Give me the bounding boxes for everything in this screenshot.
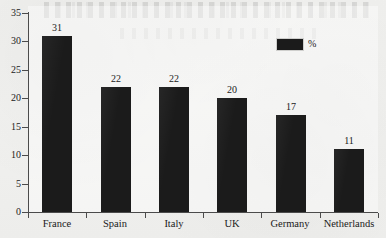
y-axis-tick-label: 35 <box>1 8 21 18</box>
bar[interactable] <box>276 115 306 212</box>
bar-value-label: 20 <box>212 85 252 95</box>
bar[interactable] <box>334 149 364 212</box>
bar-chart: 05101520253035 FranceSpainItalyUKGermany… <box>0 0 386 238</box>
y-axis-tick-label: 25 <box>1 65 21 75</box>
x-axis-category-label: Germany <box>261 218 319 230</box>
y-axis-tick <box>22 41 28 42</box>
y-axis-tick <box>22 127 28 128</box>
bar[interactable] <box>217 98 247 212</box>
y-axis-tick <box>22 184 28 185</box>
bar-value-label: 11 <box>329 136 369 146</box>
y-axis-tick-label-wrap: 35 <box>0 8 21 18</box>
y-axis-tick-label: 20 <box>1 93 21 103</box>
y-axis-line <box>28 12 29 213</box>
y-axis-tick-label-wrap: 20 <box>0 93 21 103</box>
bar[interactable] <box>101 87 131 212</box>
legend-swatch-percent <box>276 38 304 51</box>
bar-value-label: 17 <box>271 102 311 112</box>
x-axis-category-label: Spain <box>86 218 144 230</box>
y-axis-tick-label-wrap: 0 <box>0 207 21 217</box>
y-axis-tick-label-wrap: 5 <box>0 179 21 189</box>
y-axis-tick-label: 5 <box>1 179 21 189</box>
x-axis-category-label: Italy <box>145 218 203 230</box>
bar-value-label: 22 <box>96 74 136 84</box>
y-axis-tick <box>22 13 28 14</box>
y-axis-tick-label: 15 <box>1 122 21 132</box>
y-axis-tick <box>22 155 28 156</box>
x-axis-tick <box>28 213 29 218</box>
x-axis-category-label: UK <box>203 218 261 230</box>
bar-value-label: 22 <box>154 74 194 84</box>
x-axis-tick <box>378 213 379 218</box>
bar[interactable] <box>42 36 72 212</box>
y-axis-tick-label-wrap: 25 <box>0 65 21 75</box>
y-axis-tick-label-wrap: 10 <box>0 150 21 160</box>
y-axis-tick-label-wrap: 15 <box>0 122 21 132</box>
y-axis-tick-label: 30 <box>1 36 21 46</box>
y-axis-tick <box>22 98 28 99</box>
bar[interactable] <box>159 87 189 212</box>
y-axis-tick-label: 0 <box>1 207 21 217</box>
y-axis-tick-label: 10 <box>1 150 21 160</box>
x-axis-category-label: Netherlands <box>320 218 378 230</box>
legend-label-percent: % <box>308 38 316 49</box>
x-axis-category-label: France <box>28 218 86 230</box>
plot-area <box>28 6 378 212</box>
y-axis-tick-label-wrap: 30 <box>0 36 21 46</box>
y-axis-tick <box>22 70 28 71</box>
bar-value-label: 31 <box>37 23 77 33</box>
